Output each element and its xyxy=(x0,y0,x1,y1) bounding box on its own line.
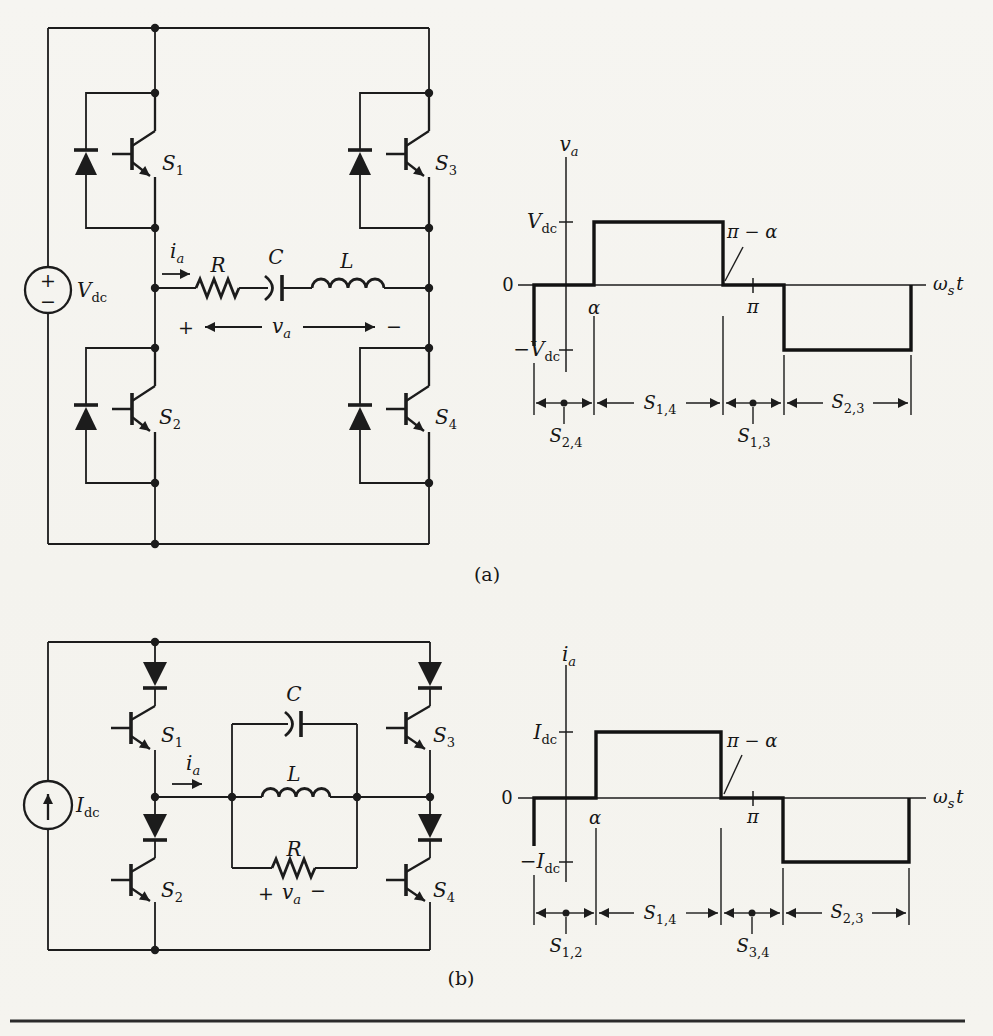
interval-s24-label: S2,4 xyxy=(549,425,582,450)
switch-cell-s3 xyxy=(386,642,442,798)
interval-s14-label: S1,4 xyxy=(643,392,676,417)
vdc-tick-label: Vdc xyxy=(527,209,557,236)
va-label: va xyxy=(272,314,291,341)
s4-label: S4 xyxy=(433,878,455,905)
pi-minus-alpha-pointer xyxy=(725,247,743,281)
junction-dot xyxy=(151,946,159,954)
source-plus-sign: + xyxy=(40,269,56,291)
neg-idc-tick-label: −Idc xyxy=(520,849,560,876)
inductor-label: L xyxy=(339,249,353,273)
current-ia-label: ia xyxy=(186,751,200,778)
switch-cell-s4 xyxy=(348,344,433,487)
junction-dot xyxy=(151,284,159,292)
circuit-b: Idc S1 S2 S3 S4 C L R ia + va − xyxy=(24,638,455,954)
s2-label: S2 xyxy=(161,878,183,905)
pi-minus-alpha-label: π − α xyxy=(726,221,778,242)
alpha-label: α xyxy=(589,807,601,828)
s1-label: S1 xyxy=(161,723,183,750)
junction-dot xyxy=(425,284,433,292)
junction-dot xyxy=(151,24,159,32)
switch-cell-s1 xyxy=(111,642,167,798)
wires xyxy=(48,28,429,544)
interval-s13-label: S1,3 xyxy=(737,425,770,450)
neg-vdc-tick-label: −Vdc xyxy=(513,337,560,364)
inductor-label: L xyxy=(286,762,300,786)
va-minus-sign: − xyxy=(386,315,402,337)
s1-label: S1 xyxy=(162,151,184,178)
s3-label: S3 xyxy=(435,151,457,178)
s3-label: S3 xyxy=(433,723,455,750)
va-label: va xyxy=(282,880,301,907)
waveform-a: va Vdc 0 −Vdc ωst α π π − α S1,4 S2,3 S2… xyxy=(502,132,964,450)
caption-a: (a) xyxy=(474,563,500,585)
alpha-label: α xyxy=(588,297,600,318)
switch-cell-s2 xyxy=(111,794,167,950)
idc-source-label: Idc xyxy=(75,793,100,820)
junction-dot xyxy=(151,793,159,801)
pi-minus-alpha-pointer xyxy=(724,755,742,794)
va-plus-sign: + xyxy=(258,882,274,904)
resistor-symbol xyxy=(196,279,239,297)
va-minus-sign: − xyxy=(310,879,326,901)
interval-s12-label: S1,2 xyxy=(549,935,582,960)
y-axis-label: ia xyxy=(562,642,576,669)
interval-s34-label: S3,4 xyxy=(736,935,769,960)
circuit-a: + − Vdc S1 S2 S3 S4 R C L ia + va − xyxy=(25,24,457,548)
capacitor-label: C xyxy=(286,682,301,706)
s2-label: S2 xyxy=(159,405,181,432)
inductor-symbol xyxy=(312,279,384,288)
resistor-symbol xyxy=(272,859,315,877)
pi-label: π xyxy=(746,296,760,317)
resistor-label: R xyxy=(285,837,301,861)
x-axis-label: ωst xyxy=(933,786,964,811)
y-axis-label: va xyxy=(559,132,578,159)
resistor-label: R xyxy=(209,253,225,277)
switch-cell-s1 xyxy=(74,89,159,232)
caption-b: (b) xyxy=(448,967,475,989)
junction-dot xyxy=(151,638,159,646)
capacitor-label: C xyxy=(268,245,283,269)
zero-tick-label: 0 xyxy=(502,274,513,295)
interval-s23-label: S2,3 xyxy=(831,391,864,416)
pi-label: π xyxy=(746,806,760,827)
wires xyxy=(48,642,430,950)
figure-canvas: + − Vdc S1 S2 S3 S4 R C L ia + va − xyxy=(0,0,993,1036)
interval-s23-label: S2,3 xyxy=(830,901,863,926)
switch-cell-s2 xyxy=(74,344,159,487)
current-ia-label: ia xyxy=(170,239,184,266)
junction-dot xyxy=(426,793,434,801)
scanned-textbook-figure: + − Vdc S1 S2 S3 S4 R C L ia + va − xyxy=(0,0,993,1036)
va-plus-sign: + xyxy=(178,316,194,338)
inductor-symbol xyxy=(262,789,330,798)
zero-tick-label: 0 xyxy=(501,787,512,808)
waveform-b: ia Idc 0 −Idc ωst α π π − α S1,4 S2,3 S1… xyxy=(501,642,964,960)
junction-dot xyxy=(353,793,361,801)
pi-minus-alpha-label: π − α xyxy=(726,730,778,751)
junction-dot xyxy=(151,540,159,548)
vdc-source-label: Vdc xyxy=(77,278,107,305)
source-minus-sign: − xyxy=(40,290,56,312)
idc-tick-label: Idc xyxy=(532,720,557,747)
interval-s14-label: S1,4 xyxy=(643,902,676,927)
junction-dot xyxy=(228,793,236,801)
x-axis-label: ωst xyxy=(933,273,964,298)
s4-label: S4 xyxy=(435,405,457,432)
switch-cell-s3 xyxy=(348,89,433,232)
switch-cell-s4 xyxy=(386,794,442,950)
